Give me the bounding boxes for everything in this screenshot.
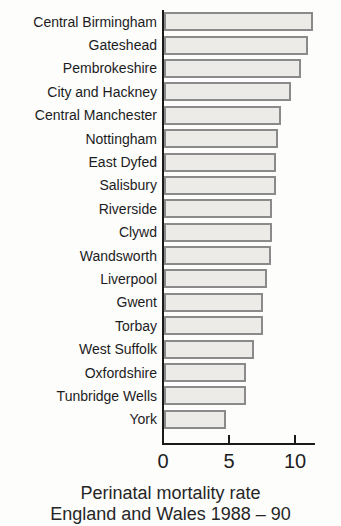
bar-row: Tunbridge Wells xyxy=(0,384,341,407)
bar xyxy=(164,12,313,31)
bar xyxy=(164,82,291,101)
category-label: Riverside xyxy=(0,202,164,216)
category-label: York xyxy=(0,412,164,426)
bar xyxy=(164,386,246,405)
bar xyxy=(164,293,263,312)
category-label: East Dyfed xyxy=(0,155,164,169)
bar-row: Gwent xyxy=(0,291,341,314)
bar xyxy=(164,129,278,148)
bar-row: East Dyfed xyxy=(0,150,341,173)
category-label: Central Birmingham xyxy=(0,15,164,29)
category-label: Tunbridge Wells xyxy=(0,389,164,403)
bar xyxy=(164,316,263,335)
bar xyxy=(164,176,276,195)
bar-row: City and Hackney xyxy=(0,80,341,103)
category-label: Gateshead xyxy=(0,38,164,52)
bar-row: Liverpool xyxy=(0,267,341,290)
category-label: Gwent xyxy=(0,295,164,309)
bar xyxy=(164,106,281,125)
category-label: Torbay xyxy=(0,319,164,333)
chart-subtitle: England and Wales 1988 – 90 xyxy=(0,504,341,525)
bar-row: Gateshead xyxy=(0,33,341,56)
category-label: Wandsworth xyxy=(0,249,164,263)
bar-row: Wandsworth xyxy=(0,244,341,267)
bar-row: Nottingham xyxy=(0,127,341,150)
x-tick-label: 10 xyxy=(284,451,306,471)
bar xyxy=(164,269,267,288)
x-tick-label: 5 xyxy=(223,451,234,471)
bar xyxy=(164,59,301,78)
category-label: City and Hackney xyxy=(0,85,164,99)
bar-row: Oxfordshire xyxy=(0,361,341,384)
bar-row: Central Birmingham xyxy=(0,10,341,33)
x-tick-mark xyxy=(228,435,230,443)
category-label: Nottingham xyxy=(0,132,164,146)
bar xyxy=(164,410,226,429)
chart-title: Perinatal mortality rate xyxy=(0,483,341,504)
bar-rows: Central BirminghamGatesheadPembrokeshire… xyxy=(0,10,341,431)
bar-row: Salisbury xyxy=(0,174,341,197)
category-label: Pembrokeshire xyxy=(0,61,164,75)
category-label: Liverpool xyxy=(0,272,164,286)
category-label: Oxfordshire xyxy=(0,366,164,380)
bar xyxy=(164,36,308,55)
bar-row: Clywd xyxy=(0,221,341,244)
bar-row: York xyxy=(0,408,341,431)
category-label: Central Manchester xyxy=(0,108,164,122)
bar xyxy=(164,340,254,359)
bar-row: Pembrokeshire xyxy=(0,57,341,80)
x-tick-label: 0 xyxy=(157,451,168,471)
bar-row: Riverside xyxy=(0,197,341,220)
bar xyxy=(164,223,272,242)
x-tick-mark xyxy=(294,435,296,443)
bar xyxy=(164,199,272,218)
bar xyxy=(164,153,276,172)
category-label: Clywd xyxy=(0,225,164,239)
x-axis-line xyxy=(162,443,315,445)
chart-caption: Perinatal mortality rate England and Wal… xyxy=(0,483,341,525)
bar-row: Torbay xyxy=(0,314,341,337)
plot-area: Central BirminghamGatesheadPembrokeshire… xyxy=(0,0,341,446)
bar-row: West Suffolk xyxy=(0,337,341,360)
category-label: Salisbury xyxy=(0,178,164,192)
perinatal-mortality-bar-chart: Central BirminghamGatesheadPembrokeshire… xyxy=(0,0,341,526)
bar-row: Central Manchester xyxy=(0,104,341,127)
category-label: West Suffolk xyxy=(0,342,164,356)
bar xyxy=(164,246,271,265)
bar xyxy=(164,363,246,382)
